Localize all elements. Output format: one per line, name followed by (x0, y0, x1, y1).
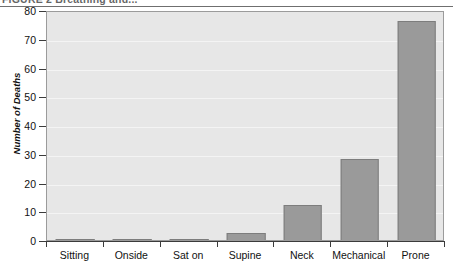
x-axis-tick (273, 241, 274, 247)
y-axis-tick (39, 11, 46, 12)
x-axis-tick (160, 241, 161, 247)
y-axis-tick (39, 184, 46, 185)
y-axis-tick-label: 80 (4, 5, 36, 17)
x-axis-tick-label: Neck (290, 249, 314, 261)
y-axis-tick-label: 10 (4, 206, 36, 218)
x-axis-tick-label: Prone (402, 249, 430, 261)
y-axis-tick (39, 212, 46, 213)
x-axis-tick-label: Supine (229, 249, 262, 261)
x-axis-tick (330, 241, 331, 247)
y-axis-tick-label: 20 (4, 178, 36, 190)
y-axis-tick-label: 40 (4, 120, 36, 132)
y-axis-tick-label: 70 (4, 34, 36, 46)
x-axis-tick (444, 241, 445, 247)
y-axis-tick (39, 97, 46, 98)
x-axis-tick (103, 241, 104, 247)
y-axis-tick (39, 155, 46, 156)
x-axis-tick-label: Mechanical (332, 249, 385, 261)
chart-plot-area: 01020304050607080 SittingOnsideSat onSup… (46, 11, 444, 241)
figure-container: FIGURE 2 Breathing and... Number of Deat… (0, 0, 453, 263)
x-axis-tick-label: Onside (115, 249, 148, 261)
y-axis-tick (39, 69, 46, 70)
y-axis-tick (39, 126, 46, 127)
x-axis-tick (46, 241, 47, 247)
x-axis-tick (387, 241, 388, 247)
caption-divider (0, 6, 453, 7)
y-axis-tick-label: 0 (4, 235, 36, 247)
y-axis-tick-label: 50 (4, 91, 36, 103)
y-axis-tick-label: 60 (4, 63, 36, 75)
x-axis-tick (217, 241, 218, 247)
y-axis-tick-label: 30 (4, 149, 36, 161)
x-axis-line (45, 241, 445, 242)
x-axis-tick-label: Sat on (173, 249, 203, 261)
x-axis-tick-label: Sitting (60, 249, 89, 261)
y-axis-tick (39, 40, 46, 41)
y-axis: 01020304050607080 (46, 11, 444, 241)
